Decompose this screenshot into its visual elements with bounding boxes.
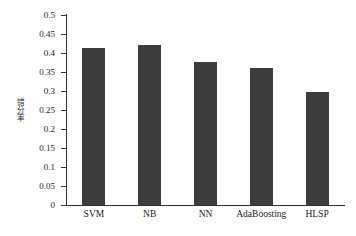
x-axis-tick-label: SVM	[84, 209, 105, 219]
y-axis-tick-label: 0.25	[2, 105, 58, 115]
bar-svm[interactable]	[82, 48, 105, 205]
bar-nn[interactable]	[194, 62, 217, 205]
bar-chart: 错分率 00.050.10.150.20.250.30.350.40.450.5…	[0, 0, 356, 236]
y-axis-tick-label: 0.35	[2, 67, 58, 77]
y-axis-tick	[61, 34, 66, 35]
x-axis-tick-label: NB	[143, 209, 156, 219]
y-axis-tick	[61, 110, 66, 111]
x-axis-tick-label: AdaBoosting	[236, 209, 286, 219]
y-axis-tick	[61, 186, 66, 187]
x-axis-tick-label: HLSP	[305, 209, 328, 219]
y-axis-tick-label: 0.3	[2, 86, 58, 96]
y-axis-tick	[61, 15, 66, 16]
y-axis-tick-label: 0.4	[2, 48, 58, 58]
plot-area	[66, 15, 345, 205]
y-axis-tick	[61, 148, 66, 149]
y-axis-tick	[61, 72, 66, 73]
bar-adaboosting[interactable]	[250, 68, 273, 205]
bar-hlsp[interactable]	[306, 92, 329, 205]
y-axis-tick-label: 0.2	[2, 124, 58, 134]
y-axis-tick	[61, 205, 66, 206]
bar-nb[interactable]	[138, 45, 161, 205]
y-axis-tick	[61, 167, 66, 168]
y-axis-tick	[61, 129, 66, 130]
y-axis-tick-label: 0.5	[2, 10, 58, 20]
y-axis-tick-label: 0.05	[2, 181, 58, 191]
y-axis-tick-label: 0.15	[2, 143, 58, 153]
y-axis-tick-label: 0.45	[2, 29, 58, 39]
y-axis-tick	[61, 53, 66, 54]
y-axis-tick-label: 0	[2, 200, 58, 210]
x-axis-tick-label: NN	[199, 209, 213, 219]
y-axis-tick	[61, 91, 66, 92]
y-axis-tick-label: 0.1	[2, 162, 58, 172]
y-axis-labels: 00.050.10.150.20.250.30.350.40.450.5	[0, 0, 58, 236]
